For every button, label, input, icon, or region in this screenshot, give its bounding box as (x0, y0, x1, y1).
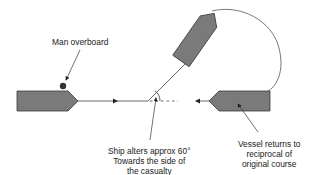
man-overboard-pointer (66, 50, 80, 80)
altered-track-line (148, 64, 185, 101)
vessel-final (209, 91, 270, 111)
ship-alters-label: Ship alters approx 60° Towards the side … (108, 146, 191, 175)
person-in-water (60, 83, 66, 89)
vessel-returns-line-2: reciprocal of (238, 149, 300, 159)
vessel-returns-label: Vessel returns to reciprocal of original… (238, 139, 300, 169)
ship-alters-line-2: Towards the side of (108, 156, 191, 166)
ship-alters-pointer (150, 98, 156, 140)
return-arrow-icon (195, 99, 200, 104)
vessel-returns-line-3: original course (238, 159, 300, 169)
ship-alters-line-3: the casualty (108, 166, 191, 175)
track-arrow-icon (113, 99, 118, 104)
ship-alters-line-1: Ship alters approx 60° (108, 146, 191, 156)
vessel-initial (17, 91, 78, 111)
vessel-altered (173, 8, 223, 67)
turn-arc (212, 9, 281, 93)
man-overboard-label: Man overboard (52, 37, 108, 47)
vessel-returns-line-1: Vessel returns to (238, 139, 300, 149)
